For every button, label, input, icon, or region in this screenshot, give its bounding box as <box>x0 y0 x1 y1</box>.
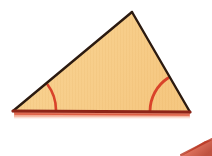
triangle-base-edge <box>13 111 190 112</box>
base-edge-highlight <box>15 114 189 115</box>
triangle-figure-svg <box>0 0 212 156</box>
figure-canvas <box>0 0 212 156</box>
